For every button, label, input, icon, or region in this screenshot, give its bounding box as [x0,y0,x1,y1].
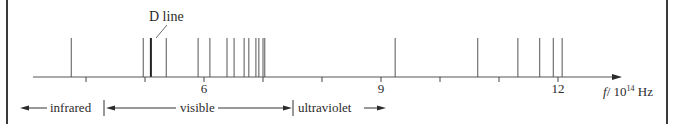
axis-ticks [86,77,558,82]
visible-right-arrowhead-icon [283,106,292,111]
visible-left-arrowhead-icon [106,106,115,111]
band-label-infrared: infrared [50,101,91,115]
tick-label: 6 [201,82,208,96]
axis-arrowhead-icon [612,74,622,80]
axis-unit-base: / 10 [607,84,627,99]
axis-unit-exponent: 14 [627,84,635,93]
infrared-arrowhead-icon [20,106,29,111]
spectral-lines [71,38,562,77]
axis-label: f/ 1014 Hz [603,82,653,99]
band-label-visible: visible [180,101,215,115]
band-label-ultraviolet: ultraviolet [298,101,351,115]
tick-label: 9 [378,82,385,96]
axis-unit-suffix: Hz [635,84,653,99]
d-line-label: D line [149,10,184,24]
tick-label: 12 [552,82,565,96]
ultraviolet-arrowhead-icon [377,106,386,111]
d-line-leader [156,25,167,38]
